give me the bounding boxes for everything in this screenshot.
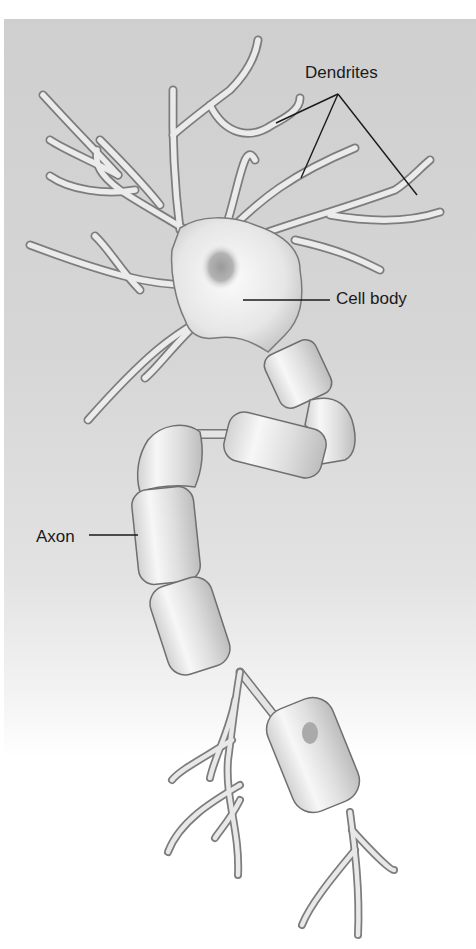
cell-body [172,218,302,352]
axon [130,336,366,819]
label-dendrites: Dendrites [305,64,378,81]
label-cell-body: Cell body [336,290,407,307]
leader-line-dendrites-3 [338,94,417,195]
label-axon: Axon [36,528,75,545]
nucleus [201,244,241,290]
neuron-illustration [0,0,476,949]
leader-line-dendrites-1 [276,94,338,123]
